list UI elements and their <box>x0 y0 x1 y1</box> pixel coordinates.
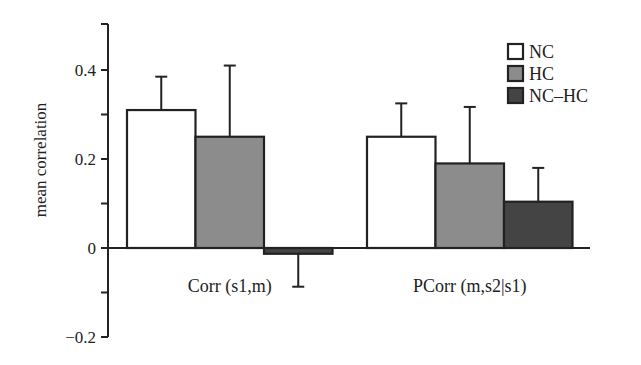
bar-nchc <box>504 202 573 248</box>
bar-nc <box>367 137 436 248</box>
bar-nc <box>127 110 196 248</box>
legend-label: HC <box>529 64 554 84</box>
bar-chart: −0.200.20.4mean correlationCorr (s1,m)PC… <box>0 0 641 365</box>
category-label: Corr (s1,m) <box>188 276 272 297</box>
y-tick-label: −0.2 <box>65 328 96 347</box>
y-tick-label: 0.4 <box>75 61 97 80</box>
y-axis-label: mean correlation <box>31 102 50 217</box>
category-label: PCorr (m,s2|s1) <box>413 276 527 297</box>
y-tick-label: 0.2 <box>75 150 96 169</box>
y-tick-label: 0 <box>88 239 97 258</box>
legend-swatch <box>508 66 523 81</box>
legend-label: NC–HC <box>529 86 588 106</box>
bar-hc <box>436 163 505 248</box>
legend-swatch <box>508 44 523 59</box>
legend-swatch <box>508 88 523 103</box>
bar-hc <box>196 137 265 248</box>
legend-label: NC <box>529 42 554 62</box>
